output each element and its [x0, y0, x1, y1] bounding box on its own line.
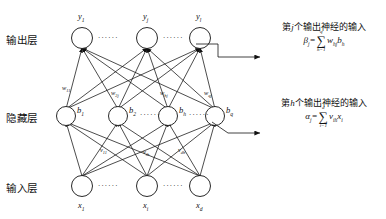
node-label-sub: 1 — [81, 111, 84, 117]
layer-label-input: 输入层 — [6, 180, 38, 195]
ellipsis-output-left: ······ — [98, 34, 119, 42]
node-label-input-i: xi — [143, 200, 148, 212]
summation-lower-limit: i=1 — [320, 124, 327, 128]
annotation-beta-formula: βj=∑qh=1whjbh — [266, 35, 382, 47]
node-label-sub: 1 — [82, 17, 85, 23]
node-label-sub: i — [147, 206, 149, 212]
formula-term2-sub: i — [341, 117, 343, 123]
weight-label-v11: v11 — [100, 146, 107, 155]
annotation-suffix: 个输出神经的输入 — [295, 98, 367, 108]
formula-eq: = — [310, 35, 316, 45]
node-label-sub: 2 — [133, 111, 136, 117]
annotation-prefix: 第 — [282, 22, 291, 32]
annotation-prefix: 第 — [281, 98, 290, 108]
node-label-output-j: yj — [143, 11, 148, 23]
node-hidden-2 — [109, 107, 128, 126]
weight-label-vih: vih — [143, 148, 149, 157]
weight-label-sub: 11 — [103, 150, 107, 155]
weight-label-vdh: vdh — [178, 146, 185, 155]
weight-label-sub: 11 — [66, 88, 70, 93]
layer-label-hidden: 隐藏层 — [6, 110, 38, 125]
node-label-sub: 1 — [82, 206, 85, 212]
weight-label-sub: dh — [181, 150, 185, 155]
node-label-hidden-2: b2 — [129, 105, 136, 117]
node-label-input-d: xd — [196, 200, 203, 212]
annotation-beta-caption: 第j个输出神经的输入 — [266, 20, 382, 33]
summation-upper-limit: d — [322, 106, 325, 110]
node-label-hidden-h: bh — [179, 105, 186, 117]
annotation-suffix: 个输出神经的输入 — [294, 22, 366, 32]
node-label-output-1: y1 — [78, 11, 85, 23]
node-input-d — [190, 176, 211, 197]
weight-label-sub: hj — [164, 93, 167, 98]
node-label-sub: j — [147, 17, 149, 23]
formula-eq: = — [312, 111, 318, 121]
weight-label-sub: ih — [146, 152, 149, 157]
node-hidden-1 — [57, 107, 76, 126]
ellipsis-output-right: ······ — [163, 34, 184, 42]
node-output-j — [137, 28, 158, 49]
node-label-sub: q — [230, 111, 233, 117]
node-label-sub: h — [183, 111, 186, 117]
weight-label-whj: whj — [160, 89, 168, 98]
node-input-i — [137, 176, 158, 197]
node-label-input-1: x1 — [78, 200, 85, 212]
node-label-sub: l — [200, 17, 202, 23]
weight-label-sub: qj — [208, 93, 211, 98]
annotation-beta: 第j个输出神经的输入 βj=∑qh=1whjbh — [266, 20, 382, 47]
node-output-l — [190, 28, 211, 49]
summation-lower-limit: h=1 — [317, 48, 325, 52]
ellipsis-hidden-right: ······ — [189, 111, 210, 119]
weight-label-w2j: w2j — [111, 89, 119, 98]
diagram-canvas: 输出层 隐藏层 输入层 y1 yj yl b1 b2 bh bq x1 xi x… — [0, 0, 386, 219]
formula-term2-sub: h — [342, 41, 345, 47]
node-hidden-h — [159, 107, 178, 126]
weight-label-w11: w11 — [62, 84, 70, 93]
node-label-output-l: yl — [196, 11, 201, 23]
ellipsis-input-right: ······ — [163, 182, 184, 190]
annotation-alpha-formula: αj=∑di=1vihxi — [266, 111, 382, 123]
ellipsis-input-left: ······ — [98, 182, 119, 190]
node-label-hidden-1: b1 — [77, 105, 84, 117]
weight-label-sub: 2j — [115, 93, 118, 98]
node-label-sub: d — [200, 206, 203, 212]
summation-symbol: ∑qh=1 — [317, 36, 326, 46]
summation-symbol: ∑di=1 — [319, 112, 328, 122]
summation-upper-limit: q — [320, 30, 323, 34]
weight-label-wqj: wqj — [204, 89, 212, 98]
ellipsis-hidden-left: ······ — [140, 111, 161, 119]
node-input-1 — [72, 176, 93, 197]
layer-label-output: 输出层 — [6, 32, 38, 47]
node-output-1 — [72, 28, 93, 49]
node-label-hidden-q: bq — [226, 105, 233, 117]
annotation-alpha: 第h个输出神经的输入 αj=∑di=1vihxi — [266, 96, 382, 123]
